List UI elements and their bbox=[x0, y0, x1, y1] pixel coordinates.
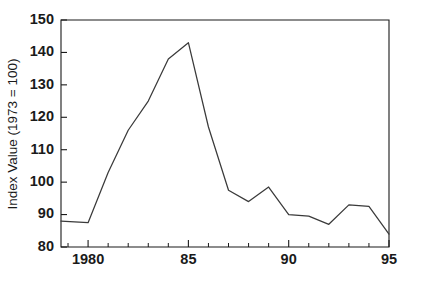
y-tick-label: 100 bbox=[30, 173, 54, 189]
y-tick-label: 150 bbox=[30, 11, 54, 27]
x-axis-tick-labels: 1980859095 bbox=[72, 251, 397, 267]
x-tick-label: 1980 bbox=[72, 251, 104, 267]
x-axis-ticks bbox=[68, 240, 389, 247]
y-tick-label: 90 bbox=[38, 205, 54, 221]
x-tick-label: 85 bbox=[180, 251, 196, 267]
x-tick-label: 90 bbox=[281, 251, 297, 267]
x-tick-label: 95 bbox=[381, 251, 397, 267]
line-chart: 8090100110120130140150 1980859095 Index … bbox=[0, 0, 424, 282]
y-tick-label: 120 bbox=[30, 108, 54, 124]
chart-page: 8090100110120130140150 1980859095 Index … bbox=[0, 0, 424, 282]
series-polyline bbox=[61, 43, 389, 234]
y-axis-tick-labels: 8090100110120130140150 bbox=[30, 11, 54, 254]
y-tick-label: 140 bbox=[30, 43, 54, 59]
y-tick-label: 130 bbox=[30, 76, 54, 92]
y-tick-label: 80 bbox=[38, 238, 54, 254]
y-axis-title: Index Value (1973 = 100) bbox=[5, 59, 20, 210]
y-tick-label: 110 bbox=[31, 141, 54, 157]
y-axis-ticks bbox=[61, 20, 67, 247]
data-series-line bbox=[61, 43, 389, 234]
